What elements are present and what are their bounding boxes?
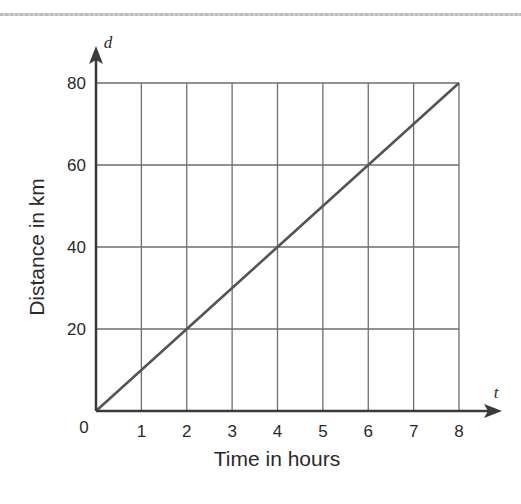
y-tick-label: 20 bbox=[67, 320, 86, 339]
y-tick-label: 60 bbox=[67, 156, 86, 175]
y-variable-label: d bbox=[104, 33, 113, 52]
distance-time-chart: 12345678 20406080 0 t d Time in hours Di… bbox=[0, 0, 521, 504]
x-axis-title: Time in hours bbox=[214, 447, 340, 470]
y-tick-label: 40 bbox=[67, 238, 86, 257]
y-tick-label: 80 bbox=[67, 74, 86, 93]
x-tick-label: 8 bbox=[454, 422, 463, 441]
x-variable-label: t bbox=[494, 383, 500, 402]
y-tick-labels: 20406080 bbox=[67, 74, 86, 339]
x-tick-label: 2 bbox=[182, 422, 191, 441]
x-tick-label: 7 bbox=[409, 422, 418, 441]
x-tick-label: 4 bbox=[273, 422, 282, 441]
x-tick-label: 6 bbox=[364, 422, 373, 441]
x-tick-label: 1 bbox=[137, 422, 146, 441]
x-tick-label: 3 bbox=[227, 422, 236, 441]
y-axis-title: Distance in km bbox=[25, 178, 48, 316]
x-tick-label: 5 bbox=[318, 422, 327, 441]
x-tick-labels: 12345678 bbox=[137, 422, 464, 441]
origin-label: 0 bbox=[79, 418, 88, 437]
